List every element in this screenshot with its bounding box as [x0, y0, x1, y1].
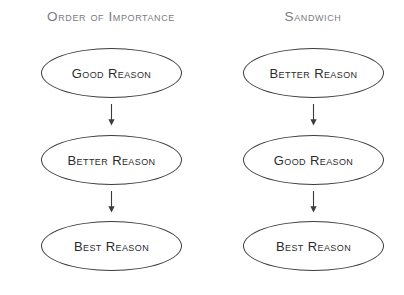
node-order-3: Best Reason — [41, 221, 182, 271]
node-label: Better Reason — [270, 66, 358, 81]
arrow-down-icon — [307, 190, 320, 214]
arrow-down-icon — [105, 103, 118, 127]
arrow-down-icon — [105, 190, 118, 214]
node-order-1: Good Reason — [41, 48, 182, 98]
node-label: Best Reason — [276, 239, 351, 254]
column-header-order-of-importance: Order of Importance — [0, 9, 232, 25]
node-label: Better Reason — [68, 153, 156, 168]
node-label: Best Reason — [74, 239, 149, 254]
column-order-of-importance: Order of Importance Good Reason Better R… — [0, 0, 222, 295]
node-sandwich-3: Best Reason — [243, 221, 384, 271]
node-label: Good Reason — [72, 66, 152, 81]
node-sandwich-2: Good Reason — [243, 135, 384, 185]
node-order-2: Better Reason — [41, 135, 182, 185]
node-sandwich-1: Better Reason — [243, 48, 384, 98]
column-header-sandwich: Sandwich — [222, 9, 404, 25]
arrow-down-icon — [307, 103, 320, 127]
column-sandwich: Sandwich Better Reason Good Reason Best … — [222, 0, 404, 295]
flowchart-diagram: Order of Importance Good Reason Better R… — [0, 0, 404, 295]
node-label: Good Reason — [274, 153, 354, 168]
